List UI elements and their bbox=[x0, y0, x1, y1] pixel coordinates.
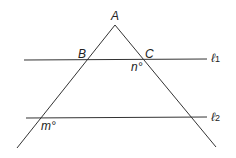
transversal-left bbox=[17, 25, 115, 148]
transversal-right bbox=[115, 25, 216, 147]
subscript: 2 bbox=[215, 113, 220, 123]
point-a-label: A bbox=[111, 10, 119, 22]
angle-n-label: n° bbox=[131, 61, 142, 73]
subscript: 1 bbox=[215, 54, 220, 64]
line-l1 bbox=[24, 59, 207, 60]
line-l2 bbox=[26, 117, 207, 118]
point-c-label: C bbox=[145, 48, 154, 60]
angle-m-label: m° bbox=[41, 120, 56, 132]
line-l1-label: ℓ1 bbox=[211, 52, 220, 64]
line-l2-label: ℓ2 bbox=[211, 111, 220, 123]
point-b-label: B bbox=[78, 48, 86, 60]
diagram-canvas bbox=[0, 0, 236, 158]
